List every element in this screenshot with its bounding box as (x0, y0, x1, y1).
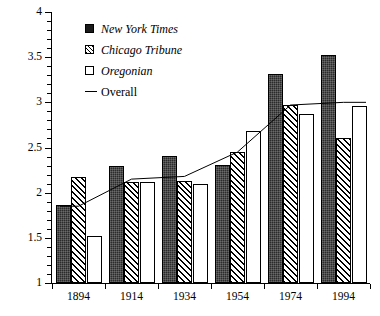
y-axis-minor-tick (47, 138, 51, 139)
x-axis-tick (317, 284, 318, 289)
y-axis-minor-tick (47, 30, 51, 31)
x-axis-tick (370, 284, 371, 289)
y-axis-minor-tick (47, 120, 51, 121)
y-axis-minor-tick (47, 166, 51, 167)
y-axis-tick (45, 193, 51, 194)
y-axis-minor-tick (47, 229, 51, 230)
y-axis-minor-tick (47, 39, 51, 40)
y-axis-minor-tick (47, 129, 51, 130)
chart-container: 11.522.533.54 189419141934195419741994 N… (0, 0, 380, 316)
y-axis-tick-label: 1.5 (0, 232, 42, 244)
y-axis-tick (45, 57, 51, 58)
legend-item-overall: Overall (85, 81, 265, 102)
legend-item-label: New York Times (101, 23, 178, 35)
y-axis-tick-label: 1 (0, 277, 42, 289)
chart-legend: New York Times Chicago Tribune Oregonian… (85, 18, 265, 102)
legend-item-label: Overall (101, 86, 137, 98)
filled-square-swatch-icon (85, 24, 94, 33)
x-axis-tick-label: 1894 (52, 291, 105, 303)
x-axis-tick-label: 1954 (211, 291, 264, 303)
y-axis-tick (45, 148, 51, 149)
y-axis-minor-tick (47, 220, 51, 221)
y-axis-minor-tick (47, 75, 51, 76)
hatched-square-swatch-icon (85, 45, 94, 54)
y-axis-tick (45, 102, 51, 103)
legend-item-new-york-times: New York Times (85, 18, 265, 39)
y-axis-tick-label: 2 (0, 187, 42, 199)
legend-item-label: Chicago Tribune (101, 44, 182, 56)
x-axis-tick-label: 1934 (158, 291, 211, 303)
overall-line-path (60, 102, 366, 206)
y-axis-minor-tick (47, 202, 51, 203)
legend-item-chicago-tribune: Chicago Tribune (85, 39, 265, 60)
y-axis-tick-label: 4 (0, 6, 42, 18)
x-axis-tick (211, 284, 212, 289)
y-axis-tick-label: 3.5 (0, 51, 42, 63)
y-axis-minor-tick (47, 111, 51, 112)
x-axis-tick-label: 1974 (264, 291, 317, 303)
x-axis-tick (105, 284, 106, 289)
y-axis-minor-tick (47, 175, 51, 176)
y-axis-tick (45, 283, 51, 284)
y-axis-minor-tick (47, 93, 51, 94)
x-axis-tick-label: 1994 (317, 291, 370, 303)
y-axis-minor-tick (47, 66, 51, 67)
y-axis-minor-tick (47, 157, 51, 158)
y-axis-minor-tick (47, 256, 51, 257)
y-axis-minor-tick (47, 274, 51, 275)
x-axis-tick-label: 1914 (105, 291, 158, 303)
y-axis-minor-tick (47, 21, 51, 22)
legend-item-oregonian: Oregonian (85, 60, 265, 81)
y-axis-minor-tick (47, 265, 51, 266)
y-axis-minor-tick (47, 84, 51, 85)
x-axis-tick (264, 284, 265, 289)
y-axis-tick-label: 2.5 (0, 142, 42, 154)
line-swatch-icon (85, 87, 97, 96)
legend-item-label: Oregonian (101, 65, 153, 77)
y-axis-tick (45, 238, 51, 239)
y-axis-tick-label: 3 (0, 96, 42, 108)
empty-square-swatch-icon (85, 66, 94, 75)
y-axis-minor-tick (47, 211, 51, 212)
y-axis-minor-tick (47, 184, 51, 185)
x-axis-tick (158, 284, 159, 289)
y-axis-minor-tick (47, 247, 51, 248)
x-axis-tick (52, 284, 53, 289)
y-axis-minor-tick (47, 48, 51, 49)
y-axis-tick (45, 12, 51, 13)
